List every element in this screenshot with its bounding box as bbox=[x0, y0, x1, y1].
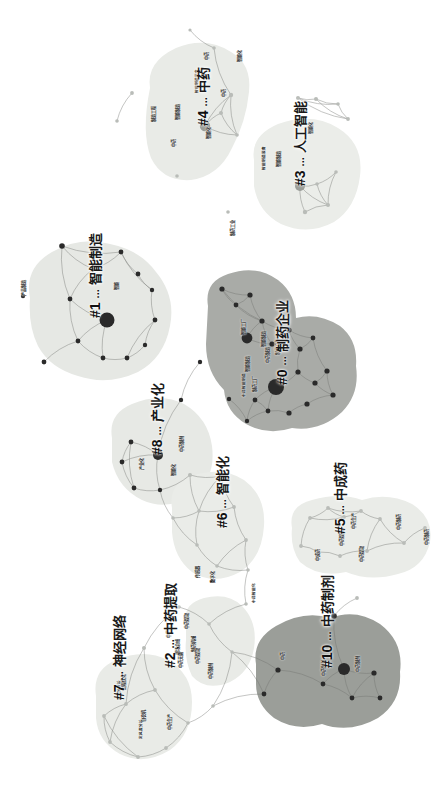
network-node[interactable] bbox=[143, 343, 147, 347]
network-node[interactable] bbox=[124, 702, 128, 706]
network-node[interactable] bbox=[130, 91, 134, 95]
network-node[interactable] bbox=[230, 650, 233, 653]
network-node[interactable] bbox=[312, 380, 317, 385]
cluster-label-1[interactable]: #1...智能制造 bbox=[88, 233, 102, 318]
network-node[interactable] bbox=[314, 97, 318, 101]
network-node[interactable] bbox=[68, 297, 73, 302]
network-node[interactable] bbox=[266, 409, 271, 414]
network-node[interactable] bbox=[247, 292, 252, 297]
network-node[interactable] bbox=[244, 538, 248, 542]
network-node[interactable] bbox=[299, 544, 303, 548]
network-node[interactable] bbox=[245, 419, 249, 423]
network-node[interactable] bbox=[321, 682, 326, 687]
network-node[interactable] bbox=[150, 288, 154, 292]
network-node[interactable] bbox=[297, 346, 302, 351]
cluster-label-5[interactable]: #5...中成药 bbox=[333, 462, 347, 534]
network-node[interactable] bbox=[262, 692, 267, 697]
network-node[interactable] bbox=[324, 368, 329, 373]
network-node[interactable] bbox=[259, 318, 264, 323]
network-node[interactable] bbox=[42, 360, 47, 365]
cluster-label-10[interactable]: #10...中药制剂 bbox=[320, 575, 334, 668]
cluster-label-8[interactable]: #8...产业化 bbox=[150, 383, 164, 455]
network-node[interactable] bbox=[355, 596, 359, 600]
network-node[interactable] bbox=[226, 210, 230, 214]
cluster-label-2[interactable]: #2...中药提取 bbox=[163, 583, 177, 668]
network-node[interactable] bbox=[229, 93, 233, 97]
network-node[interactable] bbox=[336, 102, 340, 106]
network-node[interactable] bbox=[219, 286, 224, 291]
network-node[interactable] bbox=[371, 670, 376, 675]
network-node[interactable] bbox=[102, 714, 106, 718]
cluster-label-6[interactable]: #6...智能化 bbox=[215, 456, 229, 528]
network-node[interactable] bbox=[136, 272, 141, 277]
network-node[interactable] bbox=[101, 356, 106, 361]
network-node[interactable] bbox=[246, 568, 250, 572]
network-node[interactable] bbox=[308, 516, 312, 520]
network-node[interactable] bbox=[188, 28, 191, 31]
network-node[interactable] bbox=[234, 303, 239, 308]
network-node[interactable] bbox=[158, 488, 162, 492]
network-node[interactable] bbox=[330, 392, 335, 397]
network-node[interactable] bbox=[378, 696, 383, 701]
network-node[interactable] bbox=[198, 360, 202, 364]
cluster-id: #4 bbox=[196, 110, 210, 126]
network-node[interactable] bbox=[296, 96, 300, 100]
network-node[interactable] bbox=[244, 602, 248, 606]
network-node[interactable] bbox=[197, 509, 201, 513]
network-node[interactable] bbox=[286, 410, 291, 415]
network-node[interactable] bbox=[315, 182, 319, 186]
cluster-label-0[interactable]: #0...制药企业 bbox=[275, 300, 289, 385]
network-node[interactable] bbox=[164, 746, 168, 750]
node-label: 中药 bbox=[281, 652, 285, 660]
network-node[interactable] bbox=[326, 203, 330, 207]
network-node[interactable] bbox=[311, 336, 316, 341]
network-node[interactable] bbox=[211, 704, 215, 708]
network-node[interactable] bbox=[153, 688, 157, 692]
network-node[interactable] bbox=[132, 486, 137, 491]
network-node[interactable] bbox=[129, 440, 134, 445]
network-node[interactable] bbox=[295, 369, 300, 374]
network-node[interactable] bbox=[402, 541, 406, 545]
network-node[interactable] bbox=[365, 549, 369, 553]
network-node[interactable] bbox=[188, 473, 192, 477]
network-node[interactable] bbox=[175, 174, 179, 178]
network-node[interactable] bbox=[120, 460, 125, 465]
network-node[interactable] bbox=[304, 401, 309, 406]
cluster-label-4[interactable]: #4...中药 bbox=[196, 67, 210, 126]
network-node[interactable] bbox=[119, 250, 124, 255]
network-node[interactable] bbox=[153, 318, 158, 323]
network-node[interactable] bbox=[235, 133, 239, 137]
network-node[interactable] bbox=[338, 554, 342, 558]
network-node[interactable] bbox=[207, 622, 211, 626]
network-node[interactable] bbox=[359, 509, 363, 513]
network-node[interactable] bbox=[227, 397, 231, 401]
network-node[interactable] bbox=[338, 663, 350, 675]
network-node[interactable] bbox=[212, 46, 216, 50]
network-node[interactable] bbox=[136, 755, 140, 759]
network-node[interactable] bbox=[179, 398, 183, 402]
network-node[interactable] bbox=[76, 339, 81, 344]
network-node[interactable] bbox=[115, 119, 119, 123]
network-node[interactable] bbox=[350, 696, 355, 701]
network-node[interactable] bbox=[59, 243, 65, 249]
network-node[interactable] bbox=[232, 505, 236, 509]
network-node[interactable] bbox=[125, 356, 130, 361]
network-node[interactable] bbox=[108, 740, 112, 744]
network-node[interactable] bbox=[303, 210, 307, 214]
network-node[interactable] bbox=[269, 341, 274, 346]
network-node[interactable] bbox=[195, 543, 199, 547]
network-node[interactable] bbox=[326, 506, 330, 510]
network-node[interactable] bbox=[275, 667, 280, 672]
network-node[interactable] bbox=[253, 398, 258, 403]
network-edge bbox=[245, 570, 248, 604]
network-node[interactable] bbox=[346, 117, 350, 121]
network-node[interactable] bbox=[334, 170, 338, 174]
cluster-label-3[interactable]: #3...人工智能 bbox=[293, 101, 307, 186]
network-node[interactable] bbox=[378, 517, 382, 521]
network-node[interactable] bbox=[142, 646, 146, 650]
network-node[interactable] bbox=[219, 111, 223, 115]
network-node[interactable] bbox=[215, 564, 219, 568]
network-node[interactable] bbox=[171, 516, 175, 520]
network-node[interactable] bbox=[186, 721, 190, 725]
cluster-label-7[interactable]: #7...神经网络 bbox=[112, 615, 126, 700]
